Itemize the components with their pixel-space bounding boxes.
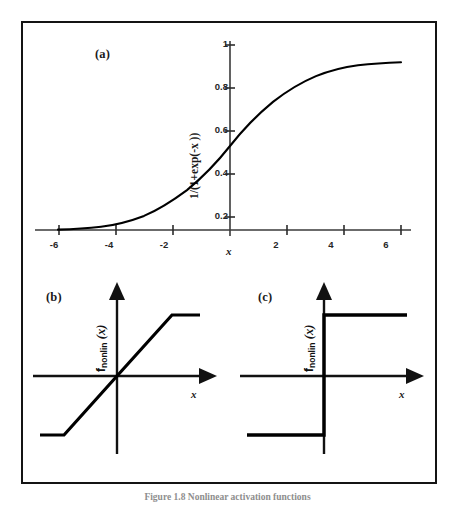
panel-c-x-axis-arrowhead <box>406 368 424 384</box>
panel-b-plot-svg <box>25 262 230 462</box>
panel-b-ramp-plot: (b) fnonlin (x) x <box>25 262 230 462</box>
panel-c-y-axis-arrowhead <box>316 282 332 300</box>
figure-caption: Figure 1.8 Nonlinear activation function… <box>0 489 455 506</box>
panel-a-sigmoid-plot: (a) 1 0.8 0.6 0.4 0.2 -6 -4 -2 2 4 6 x 1… <box>21 21 437 266</box>
panel-a-plot-svg <box>21 21 437 266</box>
panel-c-step-plot: (c) fnonlin (x) x <box>232 262 437 462</box>
figure-root: (a) 1 0.8 0.6 0.4 0.2 -6 -4 -2 2 4 6 x 1… <box>0 0 455 506</box>
panel-c-plot-svg <box>232 262 437 462</box>
panel-b-y-axis-arrowhead <box>109 282 125 300</box>
panel-b-x-axis-arrowhead <box>199 368 217 384</box>
